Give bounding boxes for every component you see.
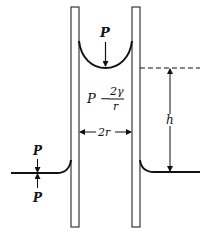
outer-surface-left [11, 160, 71, 173]
label-2gamma: 2γ [109, 85, 124, 98]
label-2r: 2r [97, 126, 111, 139]
right-tube-wall [132, 7, 140, 227]
label-p-outer-bottom: P [32, 191, 43, 205]
label-p-outer-top: P [32, 144, 43, 158]
label-p-top: P [99, 25, 111, 40]
left-tube-wall [71, 7, 79, 227]
capillary-diagram: P P − 2γ r 2r P P h [0, 0, 211, 240]
label-p-minus: P − [86, 91, 111, 106]
label-h: h [166, 113, 174, 127]
label-r-den: r [113, 100, 119, 113]
